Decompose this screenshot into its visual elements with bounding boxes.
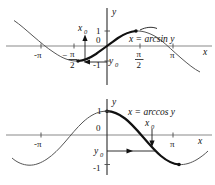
y-tick-one-bottom: 1 [97,106,102,116]
minus-sign-top: − [62,50,67,60]
y-tick-neg-one-bottom: -1 [93,163,101,173]
x0-main-top: x [77,23,83,33]
y0-label-top: y 0 [108,56,119,68]
x-tick-pi-half-top: π 2 [135,49,144,70]
x-axis-label-top: x [202,47,208,57]
trig-inverse-figure: y x 1 0 -1 -π π − π 2 π 2 x 0 [0,0,215,185]
chart-top-svg: y x 1 0 -1 -π π − π 2 π 2 x 0 [0,0,215,92]
x0-arrow-head-top [82,35,87,42]
y-axis-label-bottom: y [111,97,117,107]
equation-label-bottom: x = arccos y [127,107,176,117]
x-tick-neg-pi-half-top: − π 2 [62,49,77,70]
x-tick-pi-top: π [170,50,175,60]
x0-main-bottom: x [144,118,150,128]
y-axis-label-top: y [111,7,117,17]
y0-main-top: y [108,56,114,66]
y0-main-bottom: y [93,146,99,156]
chart-bottom-arccos: y x 1 0 -1 -π π x 0 y 0 x = arccos y [0,93,215,185]
x0-label-top: x 0 [77,23,88,35]
x0-label-bottom: x 0 [144,118,155,130]
two-denominator-top-right: 2 [137,60,142,70]
x-tick-neg-pi-top: -π [34,50,42,60]
endpoint-dot-upper [134,29,137,32]
pi-numerator-top-left: π [70,49,75,59]
arccos-bold-branch [107,111,179,164]
chart-bottom-svg: y x 1 0 -1 -π π x 0 y 0 x = arccos y [0,93,215,185]
y-tick-zero-bottom: 0 [96,123,101,133]
equation-label-top: x = arcsin y [128,34,175,44]
y0-sub-bottom: 0 [100,151,104,158]
x-tick-pi-bottom: π [170,139,175,149]
y0-sub-top: 0 [115,61,119,68]
pi-numerator-top-right: π [137,49,142,59]
x0-sub-bottom: 0 [151,123,155,130]
equation-leader-top [140,27,157,30]
endpoint-dot-bottom-bottom [177,163,181,167]
y-tick-neg-one-top: -1 [93,60,101,70]
y-tick-zero-top: 0 [96,35,101,45]
y0-arrow-head-bottom [127,148,134,153]
two-denominator-top-left: 2 [70,60,75,70]
x-tick-neg-pi-bottom: -π [34,139,42,149]
y0-label-bottom: y 0 [93,146,104,158]
x-axis-label-bottom: x [197,136,203,146]
chart-top-arcsin: y x 1 0 -1 -π π − π 2 π 2 x 0 [0,0,215,92]
x0-sub-top: 0 [84,28,88,35]
